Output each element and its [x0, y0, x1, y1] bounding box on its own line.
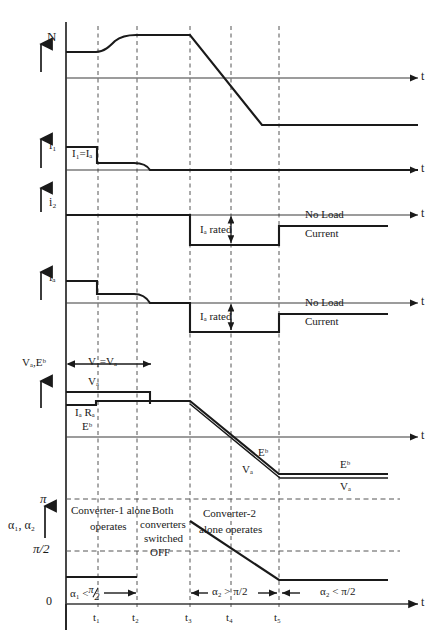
voltage-iara-label: Iₐ Rₐ: [75, 407, 95, 418]
region-2-line1: Both: [152, 505, 173, 516]
voltage-va-trace: [190, 404, 388, 478]
time-label-t3: t₃: [185, 612, 192, 623]
region-2-line2: converters: [140, 519, 186, 530]
time-label-t5: t₅: [274, 612, 281, 623]
speed-time-label: t: [421, 70, 424, 82]
voltage-axis-label: Vₐ,Eᵇ: [22, 357, 46, 368]
alpha2-lt-annotation: α₂ < π/2: [320, 586, 355, 597]
voltage-eb-right-label: Eᵇ: [340, 459, 350, 470]
ia-no-load-line2: Current: [305, 316, 339, 327]
i1-time-label: t: [421, 162, 424, 174]
region-2-line3: switched: [144, 533, 183, 544]
i2-no-load-line1: No Load: [305, 209, 344, 220]
voltage-eb-left-label: Eᵇ: [82, 421, 92, 432]
voltage-va-mid-label: Vₐ: [242, 464, 253, 475]
alpha2-gt-annotation: α₂ > π/2: [212, 586, 247, 597]
pi-over-two-fraction: π2: [89, 586, 102, 601]
speed-waveform: [66, 35, 418, 125]
i1-axis-label: i₁: [49, 139, 57, 151]
ia-rated-label: Iₐ rated: [200, 311, 231, 322]
time-label-t2: t₂: [132, 612, 139, 623]
alpha-tick-pi-half: π/2: [33, 542, 50, 555]
region-3-line2: alone operates: [199, 524, 262, 535]
voltage-va-right-label: Vₐ: [340, 481, 351, 492]
i2-no-load-line2: Current: [305, 228, 339, 239]
i2-rated-label: Iₐ rated: [200, 224, 231, 235]
panel-armature-current: [41, 272, 418, 332]
alpha-tick-zero: 0: [46, 595, 52, 607]
waveform-figure: N t i₁ I₁=Iₐ t i₂ t Iₐ rated No Load Cur…: [0, 0, 437, 643]
region-2-line4: OFF: [150, 547, 170, 558]
time-label-t1: t₁: [93, 612, 100, 623]
region-3-line1: Converter-2: [203, 508, 256, 519]
alpha-tick-pi: π: [40, 492, 47, 505]
alpha-time-label: t: [421, 596, 424, 608]
i1-value-label: I₁=Iₐ: [72, 148, 92, 159]
ia-time-label: t: [421, 295, 424, 307]
voltage-eb-mid-label: Eᵇ: [258, 447, 268, 458]
i1-waveform: [66, 147, 418, 170]
i2-axis-label: i₂: [49, 196, 57, 208]
region-1-line1: Converter-1 alone: [71, 505, 151, 516]
alpha1-range-annotation: α₁ <π2: [70, 586, 102, 601]
voltage-va-top-label: Vₐ: [88, 376, 99, 387]
ia-axis-label: iₐ: [49, 271, 56, 283]
speed-axis-label: N: [47, 30, 56, 43]
alpha1-range-text: α₁ <: [70, 587, 89, 599]
alpha-axis-label: α₁, α₂: [8, 519, 35, 531]
time-label-t4: t₄: [226, 612, 233, 623]
region-1-line2: operates: [90, 521, 127, 532]
ia-no-load-line1: No Load: [305, 297, 344, 308]
voltage-span-label: V₁=Vₐ: [88, 356, 117, 367]
i2-time-label: t: [421, 207, 424, 219]
voltage-time-label: t: [421, 429, 424, 441]
panel-converter1-current: [41, 139, 418, 170]
